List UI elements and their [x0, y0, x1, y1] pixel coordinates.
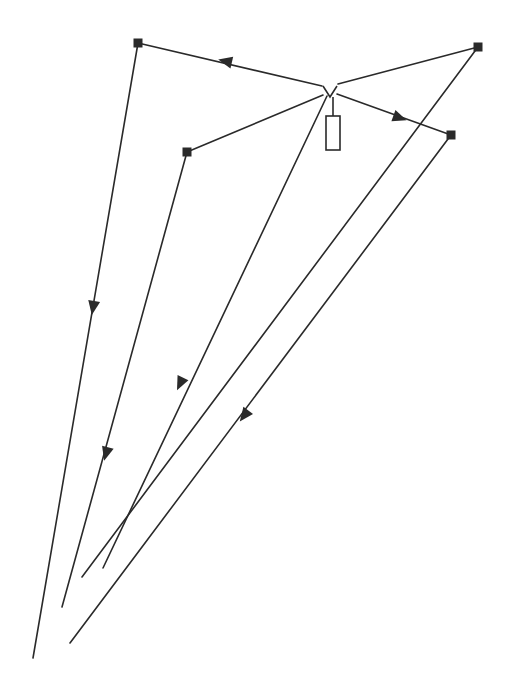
- arrow-head-icon: [88, 300, 100, 315]
- ray-line-src-direct: [103, 96, 327, 568]
- source-box-icon: [326, 116, 340, 150]
- node-C-square-icon: [447, 131, 456, 140]
- ray-line-src-D: [187, 95, 323, 152]
- reflection-nodes: [134, 39, 483, 157]
- node-A-square-icon: [134, 39, 143, 48]
- signal-source: [323, 86, 340, 150]
- ray-line-B-end: [82, 47, 478, 577]
- ray-segments: [33, 43, 478, 658]
- ray-diagram: [0, 0, 506, 691]
- arrow-head-icon: [391, 110, 406, 121]
- source-v-icon: [323, 86, 337, 97]
- diagram-canvas: [0, 0, 506, 691]
- node-B-square-icon: [474, 43, 483, 52]
- ray-line-src-B: [338, 47, 478, 84]
- ray-line-C-end: [70, 135, 451, 643]
- ray-line-A-end: [33, 43, 138, 658]
- arrow-head-icon: [177, 375, 188, 390]
- node-D-square-icon: [183, 148, 192, 157]
- arrow-head-icon: [102, 446, 114, 461]
